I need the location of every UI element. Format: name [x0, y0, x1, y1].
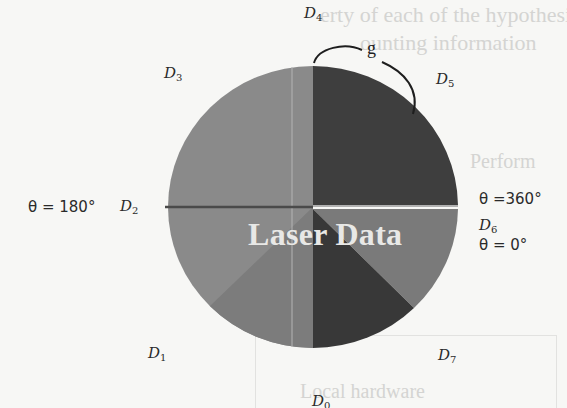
- label-d6: D6: [479, 216, 497, 235]
- label-d4: D4: [304, 4, 322, 23]
- center-title: Laser Data: [248, 216, 402, 253]
- label-d0: D0: [312, 392, 330, 408]
- gap-arc-left: [314, 46, 362, 63]
- gap-label: g: [367, 38, 376, 59]
- label-d7: D7: [438, 346, 456, 365]
- label-d2: D2: [120, 197, 138, 216]
- label-d5: D5: [436, 70, 454, 89]
- angle-0-label: θ = 0°: [479, 236, 527, 254]
- angle-180-label: θ = 180°: [28, 198, 95, 216]
- label-d3: D3: [164, 64, 182, 83]
- label-d1: D1: [148, 344, 166, 363]
- angle-360-label: θ =360°: [479, 190, 542, 208]
